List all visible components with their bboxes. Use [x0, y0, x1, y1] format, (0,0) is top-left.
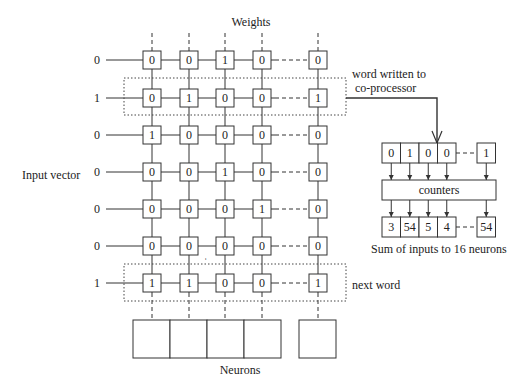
counter-to-sum-arrows — [389, 200, 489, 217]
weight-value: 0 — [222, 202, 228, 216]
register-value: 54 — [404, 220, 416, 234]
register-value: 3 — [388, 220, 394, 234]
neuron-box — [244, 320, 281, 358]
weight-value: 0 — [315, 128, 321, 142]
neuron-box — [207, 320, 244, 358]
neuron-array — [133, 320, 336, 358]
weight-cell: 0 — [309, 237, 327, 255]
weight-value: 1 — [315, 276, 321, 290]
input-value: 0 — [94, 128, 100, 142]
weight-value: 0 — [186, 165, 192, 179]
neural-coprocessor-diagram: Weights Input vector 0 1 0 — [0, 0, 522, 391]
weight-value: 0 — [186, 202, 192, 216]
grid-row-0: 0 — [94, 53, 308, 67]
weight-value: 1 — [222, 165, 228, 179]
word-written-label-2: co-processor — [355, 81, 416, 95]
weight-value: 0 — [315, 202, 321, 216]
weight-cell: 1 — [143, 126, 161, 144]
weight-cell: 0 — [253, 163, 271, 181]
weight-cell: 0 — [216, 126, 234, 144]
sum-register: 3545454 — [382, 217, 496, 237]
weight-value: 0 — [149, 202, 155, 216]
weight-cell: 0 — [253, 89, 271, 107]
input-value: 0 — [94, 53, 100, 67]
weight-cell: 0 — [143, 163, 161, 181]
transfer-arrow — [346, 98, 442, 143]
input-value: 0 — [94, 202, 100, 216]
weight-cell: 0 — [253, 126, 271, 144]
weight-value: 0 — [222, 91, 228, 105]
weight-value: 0 — [259, 276, 265, 290]
weight-value: 1 — [149, 276, 155, 290]
input-value: 0 — [94, 165, 100, 179]
weight-value: 0 — [149, 239, 155, 253]
input-value: 0 — [94, 239, 100, 253]
grid-row-2: 0 — [94, 128, 308, 142]
weight-cell: 1 — [143, 274, 161, 292]
arrow-down-icon — [444, 212, 449, 217]
weight-value: 1 — [186, 91, 192, 105]
weight-cell: 1 — [309, 274, 327, 292]
weight-cell: 0 — [309, 126, 327, 144]
weight-value: 0 — [186, 128, 192, 142]
register-value: 4 — [444, 220, 450, 234]
weight-value: 0 — [222, 128, 228, 142]
arrow-down-icon — [389, 175, 394, 180]
weight-cell: 0 — [253, 237, 271, 255]
grid-row-6: 1 — [94, 276, 308, 290]
arrow-down-icon — [444, 175, 449, 180]
arrow-down-icon — [389, 212, 394, 217]
arrow-down-icon — [407, 212, 412, 217]
weight-value: 1 — [315, 91, 321, 105]
weight-cell: 1 — [253, 200, 271, 218]
weight-cell: 0 — [216, 237, 234, 255]
register-value: 0 — [388, 146, 394, 160]
weight-value: 0 — [186, 239, 192, 253]
counters-label: counters — [419, 183, 460, 197]
weight-value: 0 — [149, 53, 155, 67]
register-value: 54 — [480, 220, 492, 234]
neurons-label: Neurons — [220, 363, 261, 377]
arrow-down-icon — [484, 175, 489, 180]
weight-value: 1 — [222, 53, 228, 67]
weight-cell: 1 — [309, 89, 327, 107]
grid-row-1: 1 — [94, 91, 308, 105]
weight-value: 0 — [149, 91, 155, 105]
weight-value: 0 — [222, 276, 228, 290]
input-value: 1 — [94, 91, 100, 105]
weight-cell: 0 — [143, 51, 161, 69]
weight-cell: 1 — [180, 89, 198, 107]
weight-cell: 0 — [216, 200, 234, 218]
weight-value: 1 — [259, 202, 265, 216]
weight-value: 1 — [149, 128, 155, 142]
weight-cell: 0 — [309, 200, 327, 218]
grid-row-4: 0 — [94, 202, 308, 216]
arrow-down-icon — [426, 212, 431, 217]
grid-row-5: 0 — [94, 239, 308, 253]
weight-value: 0 — [315, 165, 321, 179]
weight-cell: 0 — [180, 200, 198, 218]
weight-cell: 0 — [143, 89, 161, 107]
weight-cell: 0 — [253, 274, 271, 292]
weight-cell: 1 — [180, 274, 198, 292]
arrow-down-icon — [484, 212, 489, 217]
weight-cell: 0 — [180, 126, 198, 144]
weight-cell: 0 — [216, 89, 234, 107]
register-to-counter-arrows — [389, 163, 489, 180]
weight-value: 0 — [259, 128, 265, 142]
next-word-label: next word — [352, 278, 400, 292]
weight-cell: 1 — [216, 51, 234, 69]
weight-cell: 0 — [309, 51, 327, 69]
neuron-connection-lines — [152, 293, 318, 320]
weight-value: 1 — [186, 276, 192, 290]
weight-value: 0 — [222, 239, 228, 253]
word-written-label-1: word written to — [352, 67, 426, 81]
weight-cell: 1 — [216, 163, 234, 181]
weight-cell: 0 — [309, 163, 327, 181]
weight-value: 0 — [259, 239, 265, 253]
weight-cell: 0 — [143, 237, 161, 255]
neuron-box — [133, 320, 170, 358]
weight-cell: 0 — [143, 200, 161, 218]
register-value: 0 — [444, 146, 450, 160]
weight-value: 0 — [315, 239, 321, 253]
